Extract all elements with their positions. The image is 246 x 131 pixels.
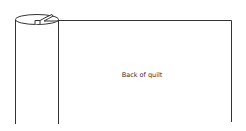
quilt-roll-diagram: Back of quilt xyxy=(0,0,246,131)
panel-label: Back of quilt xyxy=(122,71,163,79)
rolled-quilt xyxy=(16,15,59,125)
